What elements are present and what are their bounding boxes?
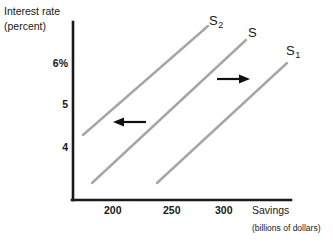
curve-s2 [83, 26, 208, 135]
x-tick-label-200: 200 [104, 205, 122, 217]
x-axis-label: Savings [252, 205, 289, 217]
y-tick-label-4: 4 [38, 142, 68, 154]
rightward-shift-arrow [217, 75, 250, 84]
curve-label-s1-text: S [286, 43, 295, 58]
x-axis-label-sub: (billions of dollars) [252, 224, 321, 234]
x-tick-label-250: 250 [163, 205, 181, 217]
curve-label-s-text: S [248, 25, 257, 40]
y-tick-label-6: 6% [38, 58, 68, 70]
y-axis-label: Interest rate (percent) [4, 6, 60, 36]
y-tick-label-5: 5 [38, 99, 68, 111]
curve-label-s2-subscript: 2 [218, 20, 223, 30]
y-axis-label-main: Interest rate [4, 6, 60, 18]
y-axis-label-sub: (percent) [4, 21, 60, 33]
savings-supply-curve-figure: Interest rate (percent) 6% 5 4 200 250 3… [0, 0, 333, 246]
x-tick-label-300: 300 [215, 205, 233, 217]
curve-label-s2: S2 [209, 14, 223, 29]
curve-s1 [157, 63, 287, 183]
curve-label-s1-subscript: 1 [295, 50, 300, 60]
curve-label-s2-text: S [209, 13, 218, 28]
curve-label-s1: S1 [286, 44, 300, 59]
leftward-shift-arrow [113, 118, 146, 127]
curve-label-s: S [248, 26, 257, 41]
